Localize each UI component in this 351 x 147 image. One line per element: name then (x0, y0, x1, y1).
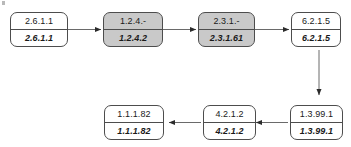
node-bottom-label: 1.1.1.82 (105, 123, 163, 139)
node-2-3-1[interactable]: 2.3.1.- 2.3.1.61 (198, 12, 255, 47)
node-bottom-label: 2.6.1.1 (11, 30, 67, 46)
node-bottom-label: 6.2.1.5 (292, 30, 340, 46)
node-1-2-4[interactable]: 1.2.4.- 1.2.4.2 (103, 12, 163, 47)
node-2-6-1-1[interactable]: 2.6.1.1 2.6.1.1 (10, 12, 68, 47)
node-top-label: 4.2.1.2 (204, 106, 255, 123)
node-bottom-label: 2.3.1.61 (199, 30, 254, 46)
node-bottom-label: 4.2.1.2 (204, 123, 255, 139)
node-4-2-1-2[interactable]: 4.2.1.2 4.2.1.2 (203, 105, 256, 140)
node-top-label: 2.6.1.1 (11, 13, 67, 30)
node-bottom-label: 1.2.4.2 (104, 30, 162, 46)
node-1-3-99-1[interactable]: 1.3.99.1 1.3.99.1 (290, 105, 343, 140)
node-1-1-1-82[interactable]: 1.1.1.82 1.1.1.82 (104, 105, 164, 140)
diagram-canvas: 2.6.1.1 2.6.1.1 1.2.4.- 1.2.4.2 2.3.1.- … (0, 0, 351, 147)
scan-artifact-speck (2, 1, 5, 5)
node-bottom-label: 1.3.99.1 (291, 123, 342, 139)
node-top-label: 6.2.1.5 (292, 13, 340, 30)
node-top-label: 1.3.99.1 (291, 106, 342, 123)
node-6-2-1-5[interactable]: 6.2.1.5 6.2.1.5 (291, 12, 341, 47)
node-top-label: 1.1.1.82 (105, 106, 163, 123)
node-top-label: 1.2.4.- (104, 13, 162, 30)
node-top-label: 2.3.1.- (199, 13, 254, 30)
